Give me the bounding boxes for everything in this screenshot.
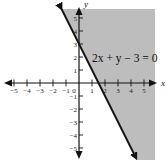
x-tick-label: 4 bbox=[129, 87, 133, 95]
x-axis-label: x bbox=[160, 78, 165, 88]
x-tick-label: −4 bbox=[23, 87, 31, 95]
x-tick-label: 3 bbox=[116, 87, 120, 95]
x-tick-label: −2 bbox=[49, 87, 57, 95]
y-tick-label: −4 bbox=[70, 132, 78, 140]
x-tick-label: 1 bbox=[90, 87, 94, 95]
graph: −5−4−3−2−1012345 −5−4−3−2−112345 y x 2x … bbox=[0, 0, 166, 168]
y-tick-label: 5 bbox=[74, 15, 78, 23]
x-tick-label: 5 bbox=[142, 87, 146, 95]
y-tick-label: −5 bbox=[70, 145, 78, 153]
y-tick-label: 2 bbox=[74, 54, 78, 62]
x-tick-label: −5 bbox=[10, 87, 18, 95]
y-axis-label: y bbox=[83, 0, 88, 9]
x-tick-label: −3 bbox=[36, 87, 44, 95]
y-tick-label: 1 bbox=[74, 67, 78, 75]
equation-label: 2x + y − 3 = 0 bbox=[92, 52, 158, 65]
y-tick-label: −3 bbox=[70, 119, 78, 127]
y-tick-label: −1 bbox=[70, 93, 78, 101]
y-tick-label: −2 bbox=[70, 106, 78, 114]
x-axis-left-arrow-icon bbox=[4, 80, 12, 87]
